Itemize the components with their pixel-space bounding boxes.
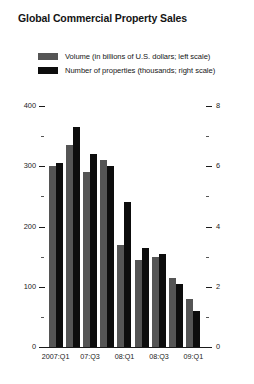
- left-axis-tick: [39, 287, 45, 288]
- legend-swatch-properties: [38, 67, 58, 74]
- bar-group: [81, 106, 98, 347]
- bar-properties: [176, 284, 183, 347]
- right-axis-minor-tick: [206, 317, 209, 318]
- legend-label-properties: Number of properties (thousands; right s…: [65, 66, 215, 75]
- bar-volume: [100, 160, 107, 347]
- x-axis-tick-label: 08:Q3: [149, 352, 169, 361]
- right-axis-tick: [206, 106, 212, 107]
- right-axis-minor-tick: [206, 196, 209, 197]
- bar-properties: [107, 166, 114, 347]
- legend-swatch-volume: [38, 53, 58, 60]
- x-axis-tick-label: 09:Q1: [184, 352, 204, 361]
- x-axis-tick-label: 07:Q3: [80, 352, 100, 361]
- bar-volume: [83, 172, 90, 347]
- bar-volume: [49, 166, 56, 347]
- bar-volume: [186, 299, 193, 347]
- plot-area: [47, 106, 202, 347]
- bar-volume: [152, 257, 159, 347]
- bar-properties: [56, 163, 63, 347]
- left-axis-label: 400: [24, 101, 36, 110]
- left-axis-minor-tick: [41, 257, 44, 258]
- bar-properties: [142, 248, 149, 347]
- left-axis-tick: [39, 227, 45, 228]
- bar-group: [99, 106, 116, 347]
- bar-properties: [159, 254, 166, 347]
- bar-volume: [169, 278, 176, 347]
- x-axis-tick-label: 2007:Q1: [42, 352, 70, 361]
- bar-group: [150, 106, 167, 347]
- chart-legend: Volume (in billions of U.S. dollars; lef…: [38, 50, 248, 78]
- bar-series-container: [47, 106, 202, 347]
- chart-title: Global Commercial Property Sales: [18, 12, 187, 24]
- right-axis-tick: [206, 287, 212, 288]
- bar-volume: [135, 260, 142, 347]
- right-axis-minor-tick: [206, 257, 209, 258]
- legend-item-volume: Volume (in billions of U.S. dollars; lef…: [38, 50, 248, 62]
- left-axis-minor-tick: [41, 196, 44, 197]
- right-axis-label: 0: [216, 342, 220, 351]
- chart-figure: Global Commercial Property Sales Volume …: [0, 0, 254, 384]
- right-axis-minor-tick: [206, 136, 209, 137]
- bar-properties: [73, 127, 80, 347]
- right-axis-label: 6: [216, 161, 220, 170]
- left-axis-minor-tick: [41, 136, 44, 137]
- left-axis-label: 200: [24, 222, 36, 231]
- bar-properties: [193, 311, 200, 347]
- right-axis-tick: [206, 227, 212, 228]
- left-axis-tick: [39, 166, 45, 167]
- x-axis-baseline: [44, 347, 206, 348]
- left-axis-tick: [39, 347, 45, 348]
- right-axis-label: 2: [216, 282, 220, 291]
- legend-label-volume: Volume (in billions of U.S. dollars; lef…: [65, 52, 210, 61]
- left-axis-label: 0: [32, 342, 36, 351]
- bar-volume: [66, 145, 73, 347]
- bar-group: [185, 106, 202, 347]
- bar-group: [116, 106, 133, 347]
- legend-item-properties: Number of properties (thousands; right s…: [38, 64, 248, 76]
- left-axis-label: 100: [24, 282, 36, 291]
- bar-group: [168, 106, 185, 347]
- bar-volume: [117, 245, 124, 347]
- left-axis-tick: [39, 106, 45, 107]
- right-axis-tick: [206, 347, 212, 348]
- right-axis-tick: [206, 166, 212, 167]
- left-axis-label: 300: [24, 161, 36, 170]
- bar-group: [133, 106, 150, 347]
- right-axis-label: 4: [216, 222, 220, 231]
- bar-group: [64, 106, 81, 347]
- right-axis-label: 8: [216, 101, 220, 110]
- bar-properties: [90, 154, 97, 347]
- bar-group: [47, 106, 64, 347]
- bar-properties: [124, 202, 131, 347]
- left-axis-minor-tick: [41, 317, 44, 318]
- x-axis-tick-label: 08:Q1: [115, 352, 135, 361]
